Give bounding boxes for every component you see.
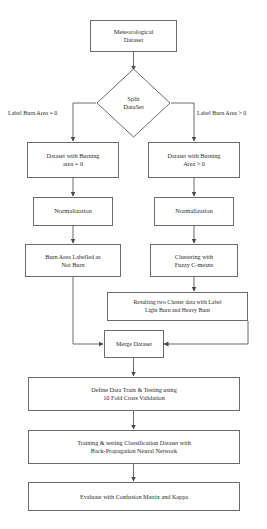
node-right-dataset-line1: Dataset with Burning [168,152,221,159]
node-right-normalization-label: Normalization [158,207,230,215]
edge-notburn-to-merge [73,277,103,344]
node-training-testing: Training & testing Classification Datase… [28,430,240,464]
node-burn-area-not-burn: Burn Area Labelled as Not Burn [25,244,121,277]
node-cluster-result: Resulting two Cluster data with Label Li… [107,292,248,321]
node-merge-label: Merge Dataset [108,340,160,348]
node-left-dataset: Dataset with Burning area = 0 [27,142,119,178]
node-clustering-fuzzy-cmeans: Clustering with Fuzzy C-means [150,244,238,277]
node-right-dataset: Dataset with Burning Area > 0 [148,142,240,178]
node-notburn-line2: Not Burn [61,261,84,268]
node-notburn-line1: Burn Area Labelled as [45,253,101,260]
node-clusterresult-line2: Light Burn and Heavy Burn [145,307,210,313]
edge-label-right-branch: Label Burn Area > 0 [197,110,246,116]
flowchart-canvas: Meteorological Dataset Split DataSet Lab… [0,0,267,529]
node-clusterresult-line1: Resulting two Cluster data with Label [133,299,221,305]
node-training-line2: Back-Propagation Neural Network [91,447,177,454]
node-left-dataset-line2: area = 0 [63,160,83,167]
node-right-normalization: Normalization [154,197,234,226]
node-cross-validation: Define Data Train & Testing using 10 Fol… [28,377,240,411]
node-decision-line1: Split [127,95,139,103]
node-clustering-line2: Fuzzy C-means [175,261,214,268]
node-crossvalidation-line2: 10 Fold Cross Validation [103,394,165,401]
node-decision-line2: DataSet [123,103,144,111]
node-source-line2: Dataset [124,36,144,43]
node-source-line1: Meteorological [114,28,154,35]
node-evaluate: Evaluate with Confusion Matrix and Kappa [28,482,240,511]
node-merge-dataset: Merge Dataset [104,330,164,358]
edge-label-left-branch: Label Burn Area = 0 [8,110,57,116]
node-split-dataset-decision: Split DataSet [96,68,171,138]
node-right-dataset-line2: Area > 0 [183,160,205,167]
edge-clusterresult-to-merge [164,321,248,344]
node-left-dataset-line1: Dataset with Burning [47,152,100,159]
node-training-line1: Training & testing Classification Datase… [77,439,191,446]
node-evaluate-label: Evaluate with Confusion Matrix and Kappa [32,493,236,501]
node-left-normalization-label: Normalization [37,207,109,215]
edge-decision-to-right [171,103,194,141]
node-meteorological-dataset: Meteorological Dataset [90,20,177,52]
edge-decision-to-left [73,103,96,141]
node-crossvalidation-line1: Define Data Train & Testing using [91,386,177,393]
node-clustering-line1: Clustering with [175,253,213,260]
node-left-normalization: Normalization [33,197,113,226]
